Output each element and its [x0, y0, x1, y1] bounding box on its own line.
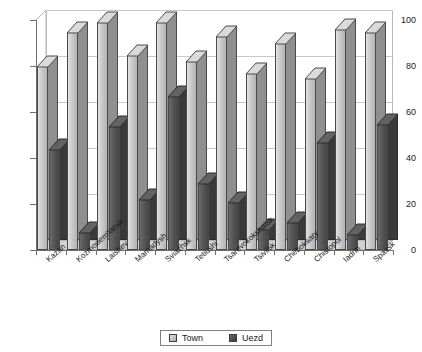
bar-top-face: [186, 51, 197, 62]
bar-front-face: [156, 22, 167, 250]
bar-uezd: [377, 114, 388, 251]
bar-top-face: [275, 33, 286, 44]
bar-town: [216, 26, 227, 250]
bar-town: [305, 68, 316, 251]
x-tick-mark: [334, 250, 335, 255]
bar-town: [127, 45, 138, 251]
legend-label-town: Town: [182, 334, 203, 343]
bar-town: [246, 63, 257, 250]
x-tick-mark: [274, 250, 275, 255]
bar-chart: 100 80 60 40 20 0 KazanKozmodem'ianskLai…: [0, 0, 422, 352]
bar-top-face: [156, 12, 167, 23]
bar-front-face: [365, 32, 376, 251]
bar-side-face: [286, 33, 296, 240]
bar-town: [37, 56, 48, 250]
bar-town: [365, 22, 376, 251]
chart-legend: Town Uezd: [160, 330, 272, 346]
bar-uezd: [228, 192, 239, 250]
bar-front-face: [246, 73, 257, 250]
bar-front-face: [305, 78, 316, 251]
bar-front-face: [275, 43, 286, 250]
bar-top-face: [127, 45, 138, 56]
bar-front-face: [67, 32, 78, 251]
x-tick-mark: [393, 250, 394, 255]
bar-side-face: [78, 22, 88, 241]
bar-top-face: [216, 26, 227, 37]
legend-swatch-uezd-icon: [229, 334, 237, 342]
bar-uezd: [317, 132, 328, 250]
bar-top-face: [67, 22, 78, 33]
bar-front-face: [198, 183, 209, 250]
bar-front-face: [168, 96, 179, 250]
x-tick-mark: [96, 250, 97, 255]
x-tick-mark: [363, 250, 364, 255]
plot-area: 100 80 60 40 20 0: [0, 0, 422, 300]
bar-top-face: [305, 68, 316, 79]
x-tick-mark: [185, 250, 186, 255]
bar-uezd: [49, 139, 60, 250]
bar-side-face: [257, 63, 267, 240]
bar-town: [156, 12, 167, 250]
bar-top-face: [139, 189, 150, 200]
x-tick-mark: [66, 250, 67, 255]
bar-town: [275, 33, 286, 250]
bar-top-face: [287, 212, 298, 223]
bar-town: [67, 22, 78, 251]
bar-side-face: [346, 19, 356, 240]
bar-front-face: [49, 149, 60, 250]
bar-front-face: [186, 61, 197, 250]
bar-front-face: [127, 55, 138, 251]
bar-top-face: [365, 22, 376, 33]
bar-top-face: [49, 139, 60, 150]
bar-top-face: [198, 173, 209, 184]
bar-top-face: [317, 132, 328, 143]
x-tick-mark: [125, 250, 126, 255]
bar-town: [97, 12, 108, 250]
bar-top-face: [228, 192, 239, 203]
bar-top-face: [168, 86, 179, 97]
bar-top-face: [246, 63, 257, 74]
legend-label-uezd: Uezd: [242, 334, 263, 343]
bar-top-face: [347, 224, 358, 235]
x-tick-mark: [215, 250, 216, 255]
bar-front-face: [37, 66, 48, 250]
bar-uezd: [168, 86, 179, 250]
x-tick-mark: [304, 250, 305, 255]
legend-swatch-town-icon: [169, 334, 177, 342]
x-tick-mark: [244, 250, 245, 255]
bar-top-face: [377, 114, 388, 125]
bar-front-face: [216, 36, 227, 250]
x-tick-mark: [36, 250, 37, 255]
x-tick-mark: [155, 250, 156, 255]
bar-top-face: [109, 116, 120, 127]
bar-uezd: [139, 189, 150, 250]
bar-town: [186, 51, 197, 250]
bar-top-face: [97, 12, 108, 23]
bar-top-face: [37, 56, 48, 67]
legend-item-uezd: Uezd: [229, 334, 263, 343]
bar-uezd: [198, 173, 209, 250]
bar-front-face: [97, 22, 108, 250]
bar-front-face: [377, 124, 388, 251]
bar-top-face: [335, 19, 346, 30]
bar-side-face: [388, 114, 398, 241]
bar-town: [335, 19, 346, 250]
bar-group-container: [0, 0, 422, 300]
bar-front-face: [335, 29, 346, 250]
bar-top-face: [79, 222, 90, 233]
legend-item-town: Town: [169, 334, 203, 343]
